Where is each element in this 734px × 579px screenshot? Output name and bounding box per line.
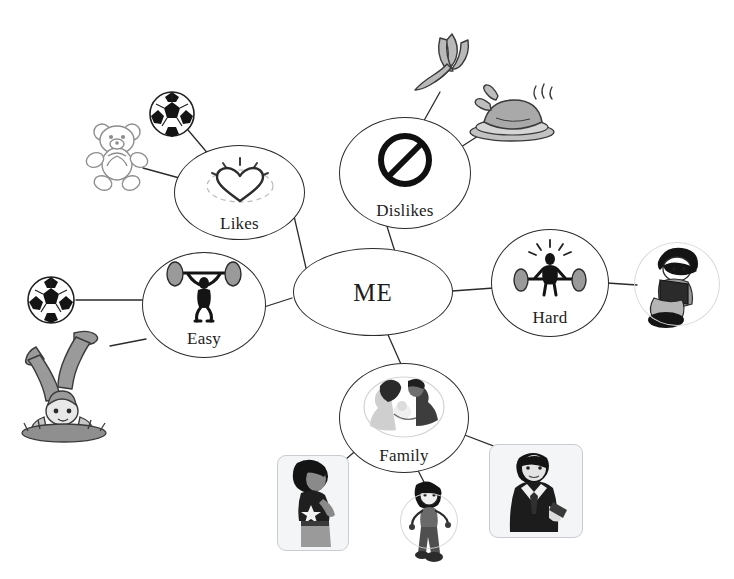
node-hard-label: Hard [533,309,568,326]
edge-me-hard [452,288,494,291]
teddy-bear-icon [86,118,148,192]
lifting-weightlifter-icon [161,259,247,325]
node-me-label: ME [353,280,393,305]
leaf-child-reading[interactable] [630,236,726,332]
handstand-child-icon [14,325,118,445]
mind-map-canvas: ME Likes [0,0,734,579]
node-hard[interactable]: Hard [491,229,609,337]
node-dislikes-label: Dislikes [376,202,433,219]
woman-star-shirt-icon [277,455,349,551]
node-easy-label: Easy [187,330,221,347]
node-easy[interactable]: Easy [142,252,266,358]
leaf-father-photo[interactable] [489,444,583,538]
struggling-weightlifter-icon [507,239,593,301]
leaf-soccer-ball-easy[interactable] [26,275,76,325]
prohibition-sign-icon [376,131,434,189]
node-likes-label: Likes [220,215,259,232]
man-in-suit-icon [489,444,583,538]
soccer-ball-icon [26,275,76,325]
likes-art [175,146,304,215]
soccer-ball-icon [148,90,196,138]
roast-chicken-icon [466,82,558,144]
node-dislikes[interactable]: Dislikes [339,117,471,229]
leaf-teddy-bear[interactable] [86,118,148,192]
leaf-soccer-ball-likes[interactable] [148,90,196,138]
leaf-roast-chicken[interactable] [466,82,558,144]
leaf-handstand-child[interactable] [14,325,118,445]
reading-circle-frame [634,242,720,326]
node-family[interactable]: Family [339,363,469,473]
node-family-label: Family [379,447,428,464]
leaf-mother-photo[interactable] [277,455,349,551]
easy-art [143,253,265,330]
node-likes[interactable]: Likes [174,145,305,240]
couple-with-baby-icon [358,374,450,438]
leaf-girl-figure[interactable] [396,475,462,567]
girl-circle-frame [400,493,458,549]
hard-art [492,230,608,309]
node-me[interactable]: ME [293,248,453,336]
shining-heart-icon [197,153,283,209]
family-art [340,364,468,447]
dislikes-art [340,118,470,202]
